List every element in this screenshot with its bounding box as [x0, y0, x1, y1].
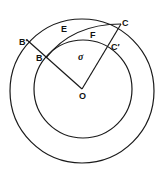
label-C: C — [122, 18, 129, 28]
radius-O-Bprime — [27, 40, 82, 89]
arc-BEC — [46, 24, 121, 58]
label-C-prime: C′ — [111, 42, 120, 52]
label-B-prime: B′ — [19, 37, 28, 47]
label-B: B — [36, 53, 43, 63]
label-O: O — [79, 91, 86, 101]
label-E: E — [61, 24, 67, 34]
label-sigma: σ — [78, 51, 84, 62]
label-F: F — [90, 30, 96, 40]
concentric-circles-diagram: B′ B E F C C′ σ O — [0, 0, 166, 174]
radius-O-C — [82, 24, 121, 89]
